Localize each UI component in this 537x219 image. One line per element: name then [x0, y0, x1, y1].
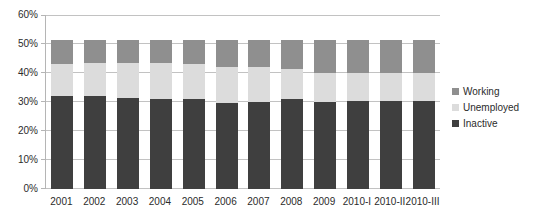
- bar-segment-unemployed-2002: [84, 63, 106, 96]
- bar-segment-working-2010-II: [380, 40, 402, 73]
- bar-2010-I: [347, 40, 369, 189]
- bar-segment-unemployed-2010-II: [380, 73, 402, 101]
- bar-segment-working-2004: [150, 40, 172, 63]
- bar-2010-III: [413, 40, 435, 189]
- bar-segment-unemployed-2006: [216, 67, 238, 103]
- legend-marker-working: [452, 88, 459, 95]
- bar-2008: [281, 40, 303, 189]
- y-tick-label: 30%: [7, 96, 38, 107]
- bar-segment-unemployed-2004: [150, 63, 172, 99]
- bar-segment-inactive-2010-III: [413, 101, 435, 189]
- bar-segment-unemployed-2003: [117, 63, 139, 98]
- y-tick-50: [41, 43, 46, 44]
- y-tick-10: [41, 159, 46, 160]
- bar-segment-unemployed-2008: [281, 69, 303, 99]
- plot-area: [45, 15, 440, 189]
- bar-segment-working-2010-I: [347, 40, 369, 73]
- y-tick-label: 10%: [7, 154, 38, 165]
- bar-segment-inactive-2010-II: [380, 101, 402, 189]
- bar-segment-inactive-2009: [314, 102, 336, 189]
- legend: WorkingUnemployedInactive: [452, 86, 519, 134]
- bar-segment-working-2003: [117, 40, 139, 63]
- bar-segment-inactive-2005: [183, 99, 205, 189]
- chart: 0%10%20%30%40%50%60% 2001200220032004200…: [0, 0, 537, 219]
- bar-2005: [183, 40, 205, 189]
- bar-2009: [314, 40, 336, 189]
- bar-segment-working-2007: [248, 40, 270, 68]
- bar-segment-unemployed-2010-III: [413, 73, 435, 101]
- bar-2007: [248, 40, 270, 189]
- legend-item-unemployed: Unemployed: [452, 102, 519, 113]
- legend-item-inactive: Inactive: [452, 118, 519, 129]
- legend-label: Working: [463, 86, 500, 97]
- y-tick-20: [41, 130, 46, 131]
- bar-segment-inactive-2001: [51, 96, 73, 189]
- bar-segment-inactive-2004: [150, 99, 172, 189]
- y-tick-label: 40%: [7, 67, 38, 78]
- bar-segment-working-2010-III: [413, 40, 435, 73]
- y-tick-60: [41, 15, 46, 16]
- legend-marker-inactive: [452, 120, 459, 127]
- bar-segment-working-2002: [84, 40, 106, 63]
- legend-label: Unemployed: [463, 102, 519, 113]
- bar-2004: [150, 40, 172, 189]
- bar-2002: [84, 40, 106, 189]
- bar-segment-inactive-2006: [216, 103, 238, 189]
- y-tick-label: 50%: [7, 38, 38, 49]
- bar-segment-working-2006: [216, 40, 238, 68]
- bar-segment-unemployed-2010-I: [347, 73, 369, 101]
- y-tick-40: [41, 72, 46, 73]
- gridline-60: [46, 15, 440, 16]
- bar-2010-II: [380, 40, 402, 189]
- bar-segment-unemployed-2005: [183, 64, 205, 99]
- bar-segment-inactive-2003: [117, 98, 139, 189]
- x-category-label: 2010-III: [401, 196, 445, 207]
- legend-label: Inactive: [463, 118, 497, 129]
- bar-segment-inactive-2007: [248, 102, 270, 189]
- bar-segment-working-2005: [183, 40, 205, 65]
- bar-segment-unemployed-2009: [314, 73, 336, 102]
- bar-segment-inactive-2008: [281, 99, 303, 189]
- y-tick-label: 0%: [7, 183, 38, 194]
- y-tick-30: [41, 101, 46, 102]
- bar-segment-working-2009: [314, 40, 336, 73]
- bar-2006: [216, 40, 238, 189]
- bar-2001: [51, 40, 73, 189]
- y-tick-0: [41, 188, 46, 189]
- bar-segment-unemployed-2001: [51, 64, 73, 96]
- legend-item-working: Working: [452, 86, 519, 97]
- bar-segment-inactive-2002: [84, 96, 106, 189]
- bar-segment-inactive-2010-I: [347, 101, 369, 189]
- y-tick-label: 20%: [7, 125, 38, 136]
- bar-segment-working-2001: [51, 40, 73, 65]
- legend-marker-unemployed: [452, 104, 459, 111]
- y-tick-label: 60%: [7, 9, 38, 20]
- bar-segment-unemployed-2007: [248, 67, 270, 102]
- bar-2003: [117, 40, 139, 189]
- bar-segment-working-2008: [281, 40, 303, 69]
